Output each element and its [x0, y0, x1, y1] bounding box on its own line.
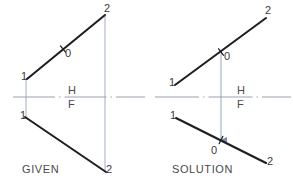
- point-label-0-h: 0: [224, 51, 230, 62]
- endpoint-label-2-f: 2: [267, 156, 273, 167]
- reference-label-f: F: [237, 99, 244, 110]
- panel-solution: [155, 18, 291, 163]
- panel-caption-given: GIVEN: [22, 164, 59, 175]
- technical-drawing-svg: [0, 0, 293, 187]
- endpoint-label-1-h: 1: [21, 71, 27, 82]
- reference-label-h: H: [237, 85, 245, 96]
- endpoint-label-2-h: 2: [265, 5, 271, 16]
- endpoint-label-2-h: 2: [104, 3, 110, 14]
- projector-lines-given: [26, 16, 105, 172]
- endpoint-label-1-f: 1: [20, 110, 26, 121]
- panel-given: [13, 15, 145, 172]
- panel-caption-solution: SOLUTION: [172, 164, 233, 175]
- reference-label-f: F: [68, 99, 75, 110]
- reference-label-h: H: [68, 85, 76, 96]
- point-label-0-f: 0: [211, 145, 217, 156]
- drawing-canvas: 1 2 0 1 2 H F GIVEN 1 2 0 1 2 0 H F SOLU…: [0, 0, 293, 187]
- point-label-0-h: 0: [65, 48, 71, 59]
- endpoint-label-2-f: 2: [106, 164, 112, 175]
- endpoint-label-1-f: 1: [170, 110, 176, 121]
- endpoint-label-1-h: 1: [169, 77, 175, 88]
